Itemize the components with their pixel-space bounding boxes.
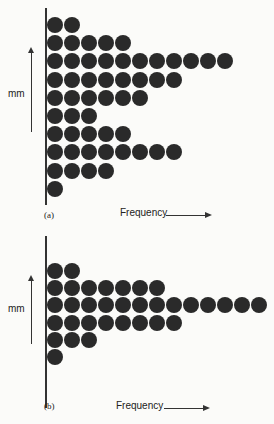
data-dot [132, 297, 148, 313]
data-dot [217, 297, 233, 313]
data-dot [132, 315, 148, 331]
data-dot [115, 315, 131, 331]
data-dot [47, 263, 63, 279]
data-dot [47, 332, 63, 348]
data-dot [47, 349, 63, 365]
data-dot [98, 297, 114, 313]
data-dot [64, 297, 80, 313]
data-dot [200, 297, 216, 313]
data-dot [149, 315, 165, 331]
panel-label: (b) [44, 401, 55, 411]
data-dot [98, 280, 114, 296]
chart-panel-b: mm (b) Frequency [0, 0, 274, 424]
data-dot [47, 315, 63, 331]
data-dot [149, 280, 165, 296]
right-arrow-icon [164, 408, 204, 409]
data-dot [47, 280, 63, 296]
data-dot [81, 297, 97, 313]
data-dot [115, 280, 131, 296]
data-dot [98, 315, 114, 331]
data-dot [234, 297, 250, 313]
data-dot [64, 280, 80, 296]
data-dot [251, 297, 267, 313]
data-dot [81, 315, 97, 331]
data-dot [166, 315, 182, 331]
data-dot [64, 263, 80, 279]
up-arrow-icon [31, 280, 32, 344]
data-dot [132, 280, 148, 296]
data-dot [115, 297, 131, 313]
data-dot [183, 297, 199, 313]
data-dot [47, 297, 63, 313]
data-dot [64, 332, 80, 348]
data-dot [166, 297, 182, 313]
data-dot [149, 297, 165, 313]
data-dot [81, 332, 97, 348]
y-axis-label: mm [8, 303, 25, 314]
x-axis-label: Frequency [116, 400, 163, 411]
data-dot [81, 280, 97, 296]
data-dot [64, 315, 80, 331]
